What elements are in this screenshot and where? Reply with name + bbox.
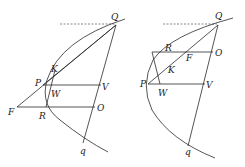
right-label-W: W bbox=[158, 88, 168, 98]
right-label-O: O bbox=[215, 48, 223, 58]
diagram-canvas: Q K P W V F R O q Q R F O K P W V q bbox=[0, 0, 245, 167]
right-diagram: Q R F O K P W V q bbox=[139, 11, 233, 158]
right-label-V: V bbox=[206, 80, 214, 90]
left-label-V: V bbox=[102, 82, 110, 92]
right-line-QP bbox=[148, 25, 218, 84]
left-line-Qq bbox=[83, 25, 116, 143]
left-label-K: K bbox=[50, 64, 59, 74]
right-label-R: R bbox=[164, 43, 172, 53]
left-label-W: W bbox=[51, 89, 61, 99]
left-diagram: Q K P W V F R O q bbox=[7, 12, 125, 156]
left-label-R: R bbox=[38, 111, 46, 121]
left-label-Q: Q bbox=[111, 12, 119, 22]
right-label-q: q bbox=[185, 147, 191, 157]
left-label-q: q bbox=[80, 146, 86, 156]
left-parabola-curve bbox=[45, 19, 125, 152]
right-label-K: K bbox=[167, 65, 176, 75]
parabola-figure: Q K P W V F R O q Q R F O K P W V q bbox=[0, 0, 245, 167]
left-label-F: F bbox=[7, 107, 15, 117]
left-label-P: P bbox=[34, 78, 42, 88]
right-line-Qq bbox=[188, 25, 218, 146]
right-label-P: P bbox=[139, 79, 147, 89]
left-label-O: O bbox=[97, 103, 105, 113]
right-label-F: F bbox=[185, 53, 193, 63]
right-label-Q: Q bbox=[215, 11, 223, 21]
